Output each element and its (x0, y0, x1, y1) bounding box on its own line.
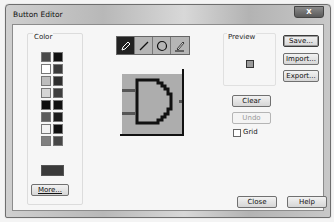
more-button-label: More... (38, 186, 62, 194)
line-icon (138, 40, 150, 52)
button-editor-window: Button Editor X Color (5, 4, 331, 218)
preview-button-icon (246, 60, 254, 68)
import-button[interactable]: Import... (283, 53, 319, 65)
export-button[interactable]: Export... (283, 70, 319, 82)
more-colors-button[interactable]: More... (31, 184, 69, 196)
swatch-l1[interactable] (41, 64, 51, 74)
and-gate-drawing (122, 74, 182, 134)
help-button[interactable]: Help (287, 196, 327, 208)
circle-icon (156, 40, 168, 52)
canvas-border-right (182, 69, 184, 136)
undo-button[interactable]: Undo (232, 112, 271, 124)
drawing-canvas[interactable] (122, 74, 182, 134)
save-button-label: Save... (289, 37, 313, 45)
swatch-l5[interactable] (41, 112, 51, 122)
grid-checkbox[interactable] (233, 129, 241, 137)
brush-icon (174, 40, 186, 52)
drawing-toolbar (116, 36, 190, 55)
swatch-r1[interactable] (53, 64, 63, 74)
color-group: Color More... (27, 33, 83, 205)
tool-brush[interactable] (171, 37, 189, 54)
canvas-border-bottom (120, 134, 184, 136)
preview-label: Preview (227, 33, 256, 41)
window-close-button[interactable]: X (294, 6, 324, 18)
close-button-label: Close (247, 198, 266, 206)
swatch-r6[interactable] (53, 124, 63, 134)
swatch-l7[interactable] (41, 136, 51, 146)
export-button-label: Export... (286, 72, 316, 80)
tool-pencil[interactable] (117, 37, 135, 54)
undo-button-label: Undo (242, 114, 260, 122)
swatch-r3[interactable] (53, 88, 63, 98)
swatch-r0[interactable] (53, 52, 63, 62)
clear-button-label: Clear (242, 97, 260, 105)
swatch-l2[interactable] (41, 76, 51, 86)
title-bar[interactable]: Button Editor X (6, 5, 330, 23)
swatch-l6[interactable] (41, 124, 51, 134)
swatch-r2[interactable] (53, 76, 63, 86)
swatch-r7[interactable] (53, 136, 63, 146)
tool-line[interactable] (135, 37, 153, 54)
swatch-r4[interactable] (53, 100, 63, 110)
dialog-client-area: Color More... (12, 24, 324, 211)
pencil-icon (120, 40, 132, 52)
swatch-l3[interactable] (41, 88, 51, 98)
current-color-swatch (41, 165, 64, 176)
help-button-label: Help (299, 198, 315, 206)
import-button-label: Import... (286, 55, 316, 63)
swatch-r5[interactable] (53, 112, 63, 122)
grid-checkbox-label: Grid (243, 128, 258, 136)
swatch-l4[interactable] (41, 100, 51, 110)
preview-group: Preview (223, 33, 276, 86)
color-group-label: Color (33, 33, 53, 41)
swatch-l0[interactable] (41, 52, 51, 62)
clear-button[interactable]: Clear (232, 95, 271, 107)
save-button[interactable]: Save... (283, 35, 319, 47)
close-button[interactable]: Close (237, 196, 277, 208)
tool-circle[interactable] (153, 37, 171, 54)
window-title: Button Editor (13, 10, 63, 19)
